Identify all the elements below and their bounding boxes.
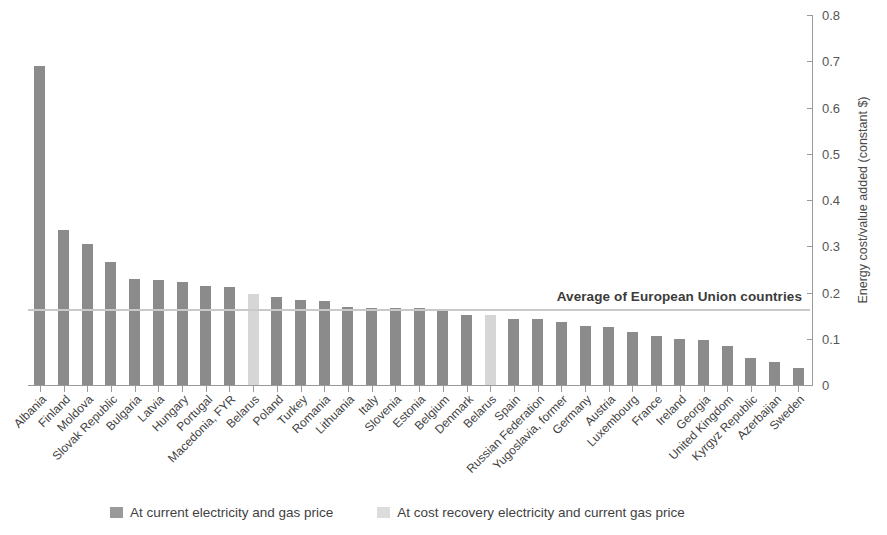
x-axis-tick-slot: [407, 386, 431, 392]
x-axis-tick-slot: [312, 386, 336, 392]
bar: [390, 308, 401, 385]
legend-swatch-icon: [110, 507, 123, 518]
x-axis-ticks: [28, 386, 810, 392]
y-axis-tick-label: 0.7: [822, 54, 840, 69]
bar: [508, 319, 519, 385]
bar-slot: [123, 15, 147, 385]
x-axis-tick-slot: [478, 386, 502, 392]
x-axis-tick-slot: [147, 386, 171, 392]
x-axis-tick: [372, 386, 373, 392]
bar: [34, 66, 45, 385]
x-axis-labels: AlbaniaFinlandMoldovaSlovak RepublicBulg…: [28, 393, 810, 493]
x-axis-tick: [206, 386, 207, 392]
y-axis-tick: [807, 246, 813, 247]
bar: [58, 230, 69, 385]
bar-slot: [407, 15, 431, 385]
x-axis-tick-slot: [715, 386, 739, 392]
bar: [745, 358, 756, 385]
x-axis-tick: [798, 386, 799, 392]
y-axis-tick-label: 0.1: [822, 331, 840, 346]
bar-slot: [170, 15, 194, 385]
x-axis-tick-slot: [502, 386, 526, 392]
bar-slot: [194, 15, 218, 385]
x-axis-tick-slot: [218, 386, 242, 392]
y-axis-title-text: Energy cost/value added (constant $): [855, 15, 871, 385]
y-axis-tick-label: 0.6: [822, 100, 840, 115]
x-axis-tick-slot: [52, 386, 76, 392]
x-axis-tick: [182, 386, 183, 392]
x-axis-tick-slot: [692, 386, 716, 392]
bar-slot: [289, 15, 313, 385]
x-axis-tick-slot: [28, 386, 52, 392]
bar-slot: [502, 15, 526, 385]
legend-swatch-icon: [377, 507, 390, 518]
bar-slot: [52, 15, 76, 385]
x-axis-tick-slot: [123, 386, 147, 392]
x-axis-tick-slot: [763, 386, 787, 392]
x-axis-tick-slot: [787, 386, 811, 392]
y-axis-tick-label: 0.8: [822, 8, 840, 23]
bar: [485, 315, 496, 385]
x-axis-tick: [443, 386, 444, 392]
y-axis-tick: [807, 154, 813, 155]
bars-layer: [28, 15, 810, 385]
x-axis-tick: [775, 386, 776, 392]
x-axis-tick: [395, 386, 396, 392]
bar: [437, 310, 448, 385]
x-axis-tick: [467, 386, 468, 392]
y-axis-tick: [807, 15, 813, 16]
bar-slot: [99, 15, 123, 385]
bar: [414, 308, 425, 385]
x-axis-tick: [727, 386, 728, 392]
bar-slot: [455, 15, 479, 385]
y-axis-tick-label: 0.4: [822, 193, 840, 208]
x-axis-tick: [158, 386, 159, 392]
bar-slot: [75, 15, 99, 385]
x-axis-tick-slot: [384, 386, 408, 392]
x-axis-tick: [40, 386, 41, 392]
bar: [319, 301, 330, 385]
bar: [532, 319, 543, 385]
x-axis-tick-slot: [360, 386, 384, 392]
y-axis-title: Energy cost/value added (constant $): [855, 15, 875, 385]
x-axis-tick-slot: [431, 386, 455, 392]
x-axis-tick-slot: [668, 386, 692, 392]
x-axis-tick: [87, 386, 88, 392]
x-axis-tick: [680, 386, 681, 392]
y-axis-tick: [807, 61, 813, 62]
x-axis-tick: [229, 386, 230, 392]
y-axis-tick: [807, 108, 813, 109]
x-axis-tick: [324, 386, 325, 392]
bar-slot: [526, 15, 550, 385]
bar: [177, 282, 188, 385]
bar-slot: [692, 15, 716, 385]
y-axis-tick-label: 0: [822, 378, 829, 393]
bar: [200, 286, 211, 385]
x-axis-tick: [656, 386, 657, 392]
bar: [556, 322, 567, 385]
y-axis-tick: [807, 293, 813, 294]
x-axis-tick-slot: [194, 386, 218, 392]
bar-slot: [549, 15, 573, 385]
bar-slot: [360, 15, 384, 385]
y-axis: 00.10.20.30.40.50.60.70.8: [812, 15, 813, 385]
bar-slot: [668, 15, 692, 385]
bar-slot: [384, 15, 408, 385]
x-axis-tick: [585, 386, 586, 392]
x-axis-tick-slot: [549, 386, 573, 392]
bar-slot: [644, 15, 668, 385]
x-axis-tick-slot: [99, 386, 123, 392]
average-reference-line: [28, 309, 810, 311]
bar: [105, 262, 116, 385]
x-axis-tick: [419, 386, 420, 392]
x-axis-tick-slot: [644, 386, 668, 392]
x-axis-tick: [277, 386, 278, 392]
x-axis-tick: [301, 386, 302, 392]
bar-slot: [336, 15, 360, 385]
x-axis-tick: [609, 386, 610, 392]
bar-slot: [431, 15, 455, 385]
bar: [153, 280, 164, 385]
bar-slot: [147, 15, 171, 385]
x-axis-tick-slot: [621, 386, 645, 392]
bar: [342, 307, 353, 385]
